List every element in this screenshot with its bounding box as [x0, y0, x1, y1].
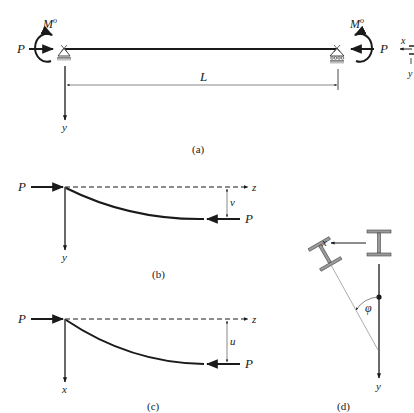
caption-a: (a) [192, 143, 205, 156]
load-label-right-c: P [244, 356, 253, 371]
caption-b: (b) [152, 268, 165, 281]
figure-c: P z P u x (c) [17, 311, 257, 413]
moment-label-right: Mo [349, 16, 364, 31]
roller-support-icon [330, 45, 344, 64]
y-axis-label-d: y [375, 380, 381, 392]
inset-cross-section: x y [400, 35, 414, 79]
load-label-left: P [16, 41, 25, 56]
y-axis-label-b: y [61, 251, 67, 263]
x-axis-label-d: x [321, 236, 327, 248]
figure-d: x y φ (d) [308, 230, 391, 413]
z-axis-label-c: z [251, 313, 257, 325]
deflection-label-v: v [230, 196, 235, 208]
moment-arrow-right-icon [355, 34, 372, 62]
figure-a: P Mo P Mo y L x y (a) [16, 16, 414, 156]
svg-text:y: y [407, 68, 413, 79]
moment-label-left: Mo [42, 16, 57, 31]
deflected-shape-c [66, 320, 204, 364]
deflection-label-u: u [230, 335, 236, 347]
figure-b: P z P v y (b) [17, 179, 257, 281]
caption-c: (c) [147, 400, 160, 413]
beam-diagram: P Mo P Mo y L x y (a) P [0, 0, 414, 413]
load-label-left-b: P [17, 179, 26, 194]
z-axis-label-b: z [251, 181, 257, 193]
angle-label-phi: φ [365, 301, 372, 315]
y-axis-label-a: y [61, 121, 67, 133]
load-label-right: P [379, 41, 388, 56]
x-axis-label-c: x [61, 383, 67, 395]
load-label-left-c: P [17, 311, 26, 326]
load-label-right-b: P [244, 211, 253, 226]
pin-support-icon [57, 45, 71, 61]
i-section-upright-icon [367, 230, 391, 256]
moment-arrow-left-icon [35, 34, 52, 62]
svg-text:x: x [400, 35, 406, 46]
deflected-shape-b [66, 188, 204, 219]
span-label: L [199, 69, 207, 84]
caption-d: (d) [337, 400, 350, 413]
